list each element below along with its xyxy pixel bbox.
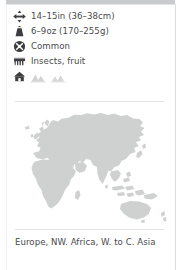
range-caption: Europe, NW. Africa, W. to C. Asia — [15, 236, 161, 249]
card-top-rule-inner — [6, 4, 175, 5]
divider-above-map — [15, 101, 164, 102]
fact-row-weight: 6–9oz (170–255g) — [13, 24, 171, 39]
fact-row-diet: Insects, fruit — [13, 54, 171, 69]
fact-row-status: Common — [13, 39, 171, 54]
fact-value-length: 14–15in (36–38cm) — [29, 9, 115, 24]
fact-value-status: Common — [29, 39, 70, 54]
length-arrows-icon — [13, 9, 29, 24]
fact-list: 14–15in (36–38cm) 6–9oz (170–255g) — [13, 9, 171, 84]
habitat-hills-icon — [31, 71, 46, 83]
species-fact-card: 14–15in (36–38cm) 6–9oz (170–255g) — [0, 0, 181, 270]
card-left-rule — [6, 4, 7, 270]
distribution-map — [13, 107, 168, 225]
weight-scale-icon — [13, 24, 29, 39]
habitat-house-icon — [13, 69, 29, 84]
diet-icon — [13, 54, 29, 69]
habitat-mountains-icon — [51, 71, 66, 83]
map-landmasses — [25, 113, 167, 223]
conservation-status-icon — [13, 39, 29, 54]
fact-row-length: 14–15in (36–38cm) — [13, 9, 171, 24]
habitat-secondary-icons — [29, 71, 66, 83]
fact-value-diet: Insects, fruit — [29, 54, 85, 69]
divider-above-caption — [15, 229, 164, 230]
fact-row-habitat — [13, 69, 171, 84]
fact-value-weight: 6–9oz (170–255g) — [29, 24, 109, 39]
card-right-rule — [175, 4, 176, 270]
